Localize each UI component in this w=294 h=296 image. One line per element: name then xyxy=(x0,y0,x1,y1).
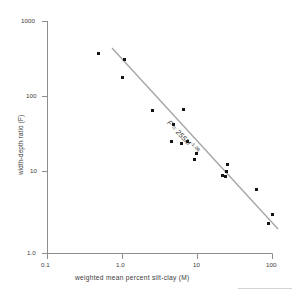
y-tick-label: 1.0 xyxy=(27,249,36,256)
data-point xyxy=(97,52,100,55)
data-point xyxy=(170,140,173,143)
y-tick-label: 10 xyxy=(30,167,37,174)
data-point xyxy=(224,175,227,178)
data-point xyxy=(121,76,124,79)
y-tick-label: 100 xyxy=(26,92,37,99)
data-point xyxy=(123,58,126,61)
x-axis-title: weighted mean percent silt-clay (M) xyxy=(75,274,190,281)
data-point xyxy=(225,170,228,173)
figure-container: 1000 100 10 1.0 0.1 1.0 10 100 width-dep… xyxy=(0,0,294,296)
data-point xyxy=(151,109,154,112)
data-point xyxy=(182,108,185,111)
regression-line xyxy=(112,48,278,229)
data-point xyxy=(271,213,274,216)
x-tick-label: 100 xyxy=(266,261,277,268)
x-tick-label: 0.1 xyxy=(41,261,50,268)
y-tick-label: 1000 xyxy=(21,17,35,24)
x-tick-label: 1.0 xyxy=(116,261,125,268)
y-axis-title: width-depth ratio (F) xyxy=(17,115,24,175)
plot-canvas xyxy=(0,0,294,296)
data-point xyxy=(226,163,229,166)
data-point xyxy=(255,188,258,191)
data-point xyxy=(267,222,270,225)
x-tick-label: 10 xyxy=(193,261,200,268)
data-point xyxy=(193,158,196,161)
